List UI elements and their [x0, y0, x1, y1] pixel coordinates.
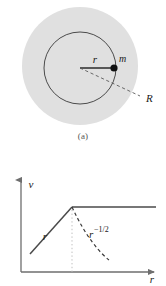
- label-y-axis-v: v: [29, 178, 34, 190]
- label-x-axis-r: r: [150, 273, 155, 285]
- point-mass-dot: [110, 64, 117, 71]
- label-falling-branch-exponent: −1/2: [94, 225, 109, 234]
- label-falling-branch-group: r −1/2: [89, 225, 109, 240]
- label-rising-branch-r: r: [43, 230, 48, 242]
- outer-disk-shape: [22, 7, 138, 125]
- sphere-diagram-svg: r m R: [0, 0, 166, 150]
- caption-panel-a: (a): [0, 131, 166, 141]
- physics-figure: r m R (a): [0, 0, 166, 286]
- rising-branch-line: [30, 207, 72, 254]
- label-inner-radius-r: r: [93, 53, 98, 65]
- label-outer-radius-R: R: [145, 92, 153, 104]
- panel-b-velocity-plot: v r r r −1/2: [0, 150, 166, 286]
- label-point-mass-m: m: [119, 53, 126, 64]
- panel-a-sphere-diagram: r m R (a): [0, 0, 166, 150]
- velocity-plot-svg: v r r r −1/2: [0, 150, 166, 286]
